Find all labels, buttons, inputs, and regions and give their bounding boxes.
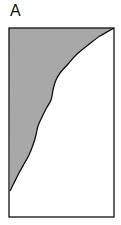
shaded-region [9, 28, 114, 191]
diagram-canvas [0, 0, 121, 225]
